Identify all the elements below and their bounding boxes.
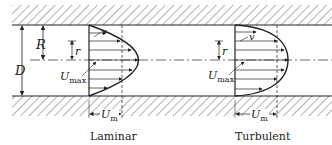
laminar-v-label: v xyxy=(101,27,107,37)
turbulent-r-label: r xyxy=(222,46,227,57)
top-wall xyxy=(12,5,332,25)
bottom-wall xyxy=(12,96,332,116)
turbulent-umax-label: Umax xyxy=(208,70,234,84)
pipe-diagram xyxy=(0,0,332,145)
diameter-label: D xyxy=(15,64,25,77)
turbulent-v-label: v xyxy=(249,32,255,42)
laminar-um-label: Um xyxy=(100,109,119,123)
turbulent-caption: Turbulent xyxy=(235,131,290,142)
radius-label: R xyxy=(36,38,46,51)
laminar-caption: Laminar xyxy=(90,131,137,142)
laminar-umax-label: Umax xyxy=(60,71,86,85)
laminar-r-label: r xyxy=(75,46,80,57)
turbulent-um-label: Um xyxy=(250,109,269,123)
